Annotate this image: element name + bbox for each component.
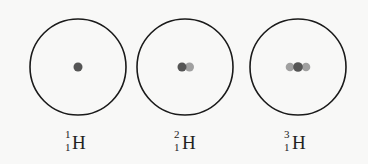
hydrogen-isotopes-diagram: 1 1 H 2 1 H 3 1 H [0,0,368,164]
atomic-number: 1 [174,142,180,153]
proton-icon [74,63,83,72]
atomic-number: 1 [284,142,290,153]
label-protium: 1 1 H [72,133,86,152]
label-tritium: 3 1 H [292,133,306,152]
element-symbol: H [182,132,196,153]
proton-icon [178,63,187,72]
atom-protium [30,19,126,115]
atom-tritium [250,19,346,115]
atom-deuterium [137,19,233,115]
atomic-number: 1 [65,142,71,153]
label-deuterium: 2 1 H [182,133,196,152]
neutron-icon [302,63,311,72]
mass-number: 2 [174,129,180,140]
neutron-icon [286,63,295,72]
mass-number: 3 [284,129,290,140]
mass-number: 1 [65,129,71,140]
proton-icon [293,62,303,72]
element-symbol: H [292,132,306,153]
element-symbol: H [72,132,86,153]
